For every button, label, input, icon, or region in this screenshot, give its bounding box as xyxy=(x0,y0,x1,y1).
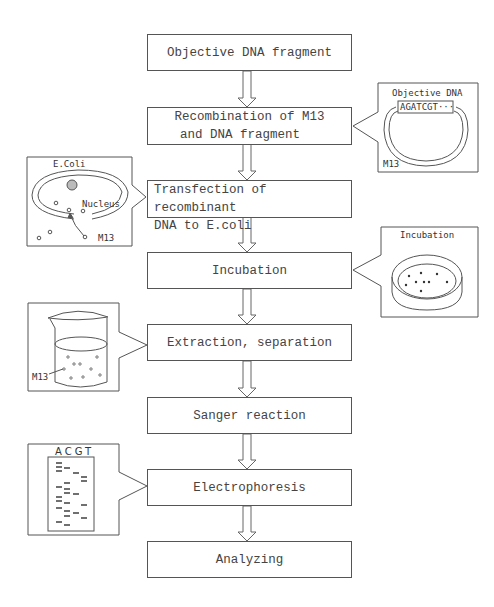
step-extraction-separation: Extraction, separation xyxy=(147,324,352,361)
dna-sequence-label: AGATCGT··· xyxy=(400,102,454,112)
nucleus-label: Nucleus xyxy=(82,199,120,209)
step-electrophoresis: Electrophoresis xyxy=(147,469,352,506)
step-sanger-reaction: Sanger reaction xyxy=(147,397,352,434)
arrow-down-icon xyxy=(238,434,256,469)
step-label: Electrophoresis xyxy=(193,479,306,497)
arrow-down-icon xyxy=(238,506,256,541)
step-objective-dna-fragment: Objective DNA fragment xyxy=(147,34,352,71)
arrow-down-icon xyxy=(238,289,256,324)
step-label: Incubation xyxy=(212,262,287,280)
step-label-line1: Recombination of M13 xyxy=(174,108,324,126)
step-label-line2: and DNA fragment xyxy=(148,126,300,144)
callout-transfection: E.Coli Nucleus M13 xyxy=(27,157,146,246)
m13-phage-label: M13 xyxy=(98,233,114,243)
m13-beaker-label: M13 xyxy=(32,372,48,382)
callout-incubation: Incubation xyxy=(353,227,478,317)
gel-lane-labels: ACGT xyxy=(55,446,94,457)
step-label: Objective DNA fragment xyxy=(167,44,332,62)
step-label: Sanger reaction xyxy=(193,407,306,425)
diagram-graphics: Objective DNA AGATCGT··· M13 E.Coli Nucl… xyxy=(0,0,494,607)
arrow-down-icon xyxy=(238,361,256,397)
step-label-line2: DNA to E.coli xyxy=(154,217,252,235)
arrow-down-icon xyxy=(238,71,256,107)
m13-vector-label: M13 xyxy=(383,159,399,169)
arrow-down-icon xyxy=(238,144,256,180)
callout-extraction: M13 xyxy=(28,303,147,391)
step-incubation: Incubation xyxy=(147,252,352,289)
step-recombination: Recombination of M13 and DNA fragment xyxy=(147,107,352,145)
step-label: Extraction, separation xyxy=(167,334,332,352)
callout-ecoli-title: E.Coli xyxy=(53,159,86,169)
step-analyzing: Analyzing xyxy=(147,541,352,578)
callout-incubation-title: Incubation xyxy=(400,230,454,240)
step-label-line1: Transfection of recombinant xyxy=(154,181,351,217)
step-label: Analyzing xyxy=(216,551,284,569)
step-transfection: Transfection of recombinant DNA to E.col… xyxy=(147,180,352,218)
callout-recombination: Objective DNA AGATCGT··· M13 xyxy=(353,83,478,172)
callout-electrophoresis: ACGT xyxy=(28,444,147,535)
callout-recombination-title: Objective DNA xyxy=(392,88,463,98)
